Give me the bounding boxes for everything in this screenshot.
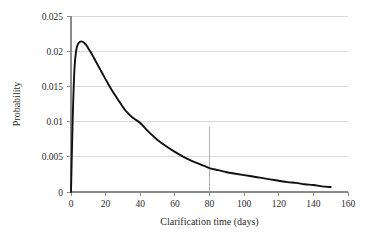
chart-figure: 0.025 0.02 0.015 0.01 0.005 0 0 20 40 60…: [0, 0, 369, 241]
y-axis-title: Probability: [11, 82, 22, 126]
x-tick-labels: 0 20 40 60 80 100 120 140 160: [69, 199, 356, 209]
y-tick-label-1: 0.005: [42, 152, 64, 162]
x-tick-label-2: 40: [136, 199, 146, 209]
y-tick-label-2: 0.01: [46, 117, 63, 127]
x-tick-label-8: 160: [341, 199, 356, 209]
x-tick-label-7: 140: [306, 199, 321, 209]
y-tick-labels: 0.025 0.02 0.015 0.01 0.005 0: [42, 12, 64, 198]
x-axis-title: Clarification time (days): [160, 216, 258, 228]
x-tick-label-6: 120: [272, 199, 287, 209]
y-tick-label-4: 0.02: [46, 47, 63, 57]
y-tick-label-0: 0: [58, 188, 63, 198]
x-tick-label-5: 100: [237, 199, 252, 209]
probability-curve: [71, 41, 331, 192]
x-tick-label-3: 60: [170, 199, 180, 209]
x-tick-label-4: 80: [205, 199, 215, 209]
y-tick-label-5: 0.025: [42, 12, 64, 22]
y-tick-label-3: 0.015: [42, 82, 64, 92]
y-axis-ticks: [67, 16, 71, 192]
x-tick-label-1: 20: [101, 199, 111, 209]
x-tick-label-0: 0: [69, 199, 74, 209]
probability-distribution-chart: 0.025 0.02 0.015 0.01 0.005 0 0 20 40 60…: [0, 0, 369, 241]
x-axis-ticks: [71, 192, 348, 196]
